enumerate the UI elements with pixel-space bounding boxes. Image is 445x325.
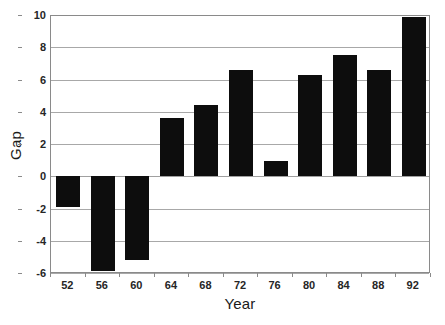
x-axis-tick-labels: 5256606468727680848892 <box>50 273 430 297</box>
y-tick-mark-10 <box>18 15 22 16</box>
y-tick-label-0: 0 <box>22 170 46 182</box>
x-tick-mark <box>292 273 293 277</box>
y-tick-mark-6 <box>18 80 22 81</box>
bar <box>367 70 391 176</box>
bar <box>160 118 184 176</box>
x-tick-mark <box>223 273 224 277</box>
y-tick-mark--4 <box>18 241 22 242</box>
x-tick-label-84: 84 <box>338 279 350 291</box>
y-tick-mark--6 <box>18 273 22 274</box>
bar <box>298 75 322 177</box>
y-tick-mark-8 <box>18 47 22 48</box>
x-tick-label-68: 68 <box>199 279 211 291</box>
bar <box>264 161 288 176</box>
x-tick-label-76: 76 <box>268 279 280 291</box>
y-tick-label-2: 2 <box>22 138 46 150</box>
y-tick-label-10: 10 <box>22 9 46 21</box>
y-tick-label--4: -4 <box>22 235 46 247</box>
x-tick-mark <box>85 273 86 277</box>
x-tick-mark <box>430 273 431 277</box>
x-tick-label-72: 72 <box>234 279 246 291</box>
y-tick-label--6: -6 <box>22 267 46 279</box>
bar-chart: Gap 1086420-2-4-6 5256606468727680848892… <box>0 0 445 325</box>
x-tick-mark <box>50 273 51 277</box>
plot-area <box>50 15 430 273</box>
x-tick-mark <box>119 273 120 277</box>
bars-series <box>51 15 429 272</box>
y-axis-tick-labels: 1086420-2-4-6 <box>22 15 46 273</box>
y-tick-mark-4 <box>18 112 22 113</box>
bar <box>56 176 80 207</box>
x-tick-label-52: 52 <box>61 279 73 291</box>
x-tick-label-56: 56 <box>96 279 108 291</box>
x-tick-mark <box>361 273 362 277</box>
bar <box>402 17 426 177</box>
y-tick-mark-2 <box>18 144 22 145</box>
x-tick-mark <box>395 273 396 277</box>
x-tick-label-64: 64 <box>165 279 177 291</box>
y-tick-label-8: 8 <box>22 41 46 53</box>
bar <box>125 176 149 260</box>
bar <box>333 55 357 176</box>
x-tick-mark <box>188 273 189 277</box>
x-axis-title: Year <box>50 295 430 312</box>
y-tick-mark--2 <box>18 209 22 210</box>
y-axis-title-label: Gap <box>6 131 23 160</box>
y-tick-label-6: 6 <box>22 74 46 86</box>
bar <box>194 105 218 176</box>
x-tick-label-60: 60 <box>130 279 142 291</box>
x-tick-label-88: 88 <box>372 279 384 291</box>
x-tick-label-80: 80 <box>303 279 315 291</box>
x-tick-mark <box>257 273 258 277</box>
x-tick-mark <box>326 273 327 277</box>
x-axis-title-label: Year <box>224 295 255 312</box>
bar <box>91 176 115 271</box>
y-tick-mark-0 <box>18 176 22 177</box>
x-tick-label-92: 92 <box>407 279 419 291</box>
y-tick-label--2: -2 <box>22 203 46 215</box>
y-tick-label-4: 4 <box>22 106 46 118</box>
x-tick-mark <box>154 273 155 277</box>
bar <box>229 70 253 176</box>
